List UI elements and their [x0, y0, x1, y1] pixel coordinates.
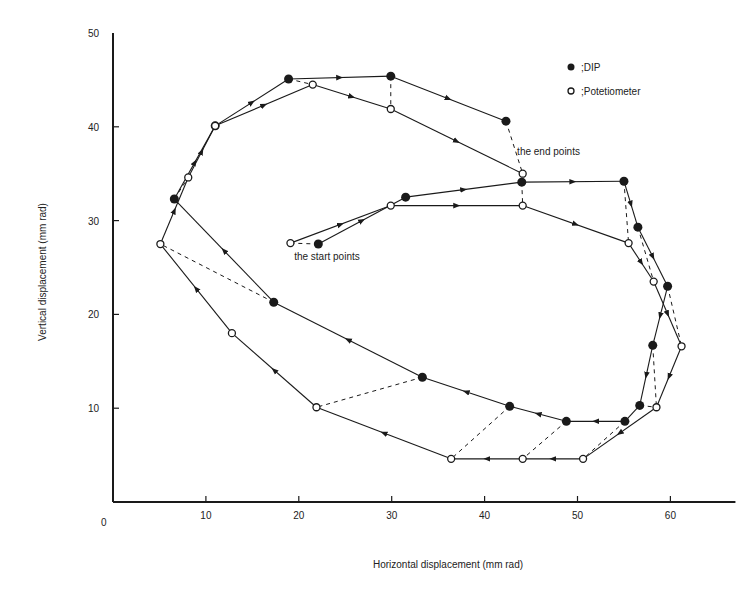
potentiometer-point-marker — [309, 81, 316, 88]
dip-point-marker — [648, 341, 657, 350]
x-axis-title: Horizontal displacement (mm rad) — [373, 559, 523, 570]
potentiometer-point-marker — [313, 404, 320, 411]
potentiometer-point-marker — [625, 240, 632, 247]
dip-point-marker — [401, 193, 410, 202]
dashed-link — [668, 286, 682, 346]
dip-point-marker — [562, 417, 571, 426]
series-segment — [391, 76, 506, 121]
potentiometer-point-marker — [212, 122, 219, 129]
potentiometer-point-marker — [448, 455, 455, 462]
dip-point-marker — [284, 74, 293, 83]
y-tick-label: 10 — [88, 403, 100, 414]
dip-point-marker — [505, 402, 514, 411]
potentiometer-point-marker — [519, 455, 526, 462]
legend-pot-label: ;Potetiometer — [581, 86, 641, 97]
potentiometer-point-marker — [650, 278, 657, 285]
y-tick-label: 30 — [88, 216, 100, 227]
series-group — [157, 72, 685, 463]
dip-point-marker — [633, 223, 642, 232]
correspondence-links — [160, 76, 681, 459]
legend-dip-label: ;DIP — [581, 62, 601, 73]
dashed-link — [583, 421, 625, 459]
x-tick-label: 20 — [293, 510, 305, 521]
x-tick-label: 30 — [386, 510, 398, 521]
potentiometer-point-marker — [519, 170, 526, 177]
legend-dip-marker-icon — [568, 64, 575, 71]
dip-point-marker — [517, 178, 526, 187]
dip-point-marker — [619, 177, 628, 186]
potentiometer-point-marker — [185, 174, 192, 181]
annotations: the start pointsthe end points — [294, 146, 580, 262]
y-tick-label: 40 — [88, 122, 100, 133]
x-tick-label: 40 — [479, 510, 491, 521]
legend-pot-marker-icon — [568, 88, 574, 94]
trajectory-chart: 1020304050601020304050 the start pointst… — [0, 0, 755, 594]
x-tick-label: 10 — [200, 510, 212, 521]
legend: ;DIP ;Potetiometer — [568, 62, 642, 97]
potentiometer-point-marker — [678, 343, 685, 350]
y-tick-label: 50 — [88, 28, 100, 39]
x-tick-label: 50 — [572, 510, 584, 521]
dip-point-marker — [386, 72, 395, 81]
dip-point-marker — [663, 282, 672, 291]
dip-point-marker — [418, 373, 427, 382]
dashed-link — [653, 345, 657, 407]
potentiometer-point-marker — [387, 105, 394, 112]
potentiometer-point-marker — [287, 240, 294, 247]
dip-point-marker — [170, 195, 179, 204]
x-tick-label: 60 — [665, 510, 677, 521]
dashed-link — [451, 406, 510, 459]
annotation-label: the start points — [294, 251, 360, 262]
potentiometer-point-marker — [519, 202, 526, 209]
annotation-label: the end points — [517, 146, 580, 157]
origin-label: 0 — [101, 517, 107, 528]
dip-point-marker — [314, 240, 323, 249]
dip-point-marker — [269, 298, 278, 307]
y-axis-title: Vertical displacement (mm rad) — [37, 203, 48, 341]
dip-point-marker — [501, 117, 510, 126]
potentiometer-point-marker — [387, 202, 394, 209]
potentiometer-point-marker — [228, 330, 235, 337]
dashed-link — [160, 244, 273, 302]
dip-point-marker — [620, 417, 629, 426]
dashed-link — [316, 377, 422, 407]
potentiometer-point-marker — [580, 455, 587, 462]
potentiometer-point-marker — [157, 241, 164, 248]
dashed-link — [523, 421, 567, 459]
potentiometer-point-marker — [653, 404, 660, 411]
dip-point-marker — [635, 401, 644, 410]
y-tick-label: 20 — [88, 309, 100, 320]
